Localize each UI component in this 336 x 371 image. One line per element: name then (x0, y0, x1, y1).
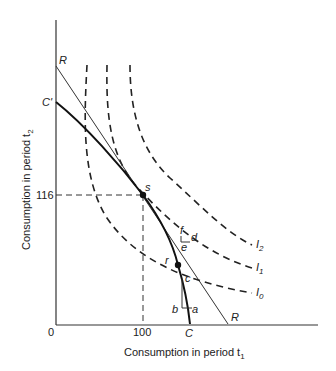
label-e: e (181, 241, 187, 253)
origin-label: 0 (48, 326, 54, 338)
label-s: s (145, 181, 151, 193)
label-c: c (185, 272, 191, 284)
label-r: r (165, 254, 170, 266)
x-tick-100: 100 (133, 326, 151, 338)
label-i0: I0 (256, 286, 264, 301)
y-axis-title: Consumption in period t2 (20, 129, 35, 250)
label-C-prime: C' (42, 96, 53, 108)
label-R-top: R (59, 54, 67, 66)
consumption-diagram: 0 100 116 Consumption in period t1 Consu… (0, 0, 336, 371)
point-r (175, 262, 181, 268)
indifference-curve-i1 (107, 65, 252, 268)
label-a: a (192, 303, 198, 315)
label-i1: I1 (256, 261, 264, 276)
x-axis-title: Consumption in period t1 (124, 346, 245, 361)
label-b: b (172, 303, 178, 315)
production-curve (56, 102, 190, 324)
y-tick-116: 116 (36, 189, 54, 201)
label-R-bottom: R (231, 311, 239, 323)
label-i2: I2 (256, 238, 264, 253)
label-C: C (185, 327, 193, 339)
label-d: d (191, 231, 198, 243)
indifference-curve-i2 (130, 65, 252, 245)
